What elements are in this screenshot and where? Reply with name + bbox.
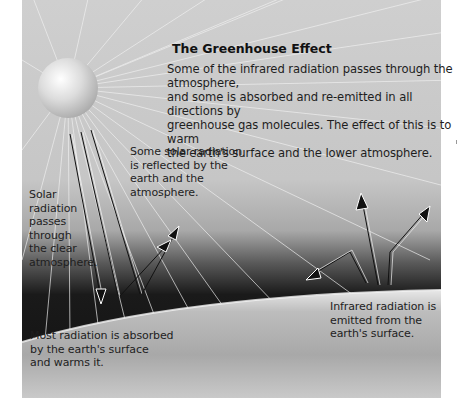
infrared-emitted-label: Infrared radiation is emitted from the e… [330,300,436,341]
absorbed-radiation-label: Most radiation is absorbed by the earth'… [30,329,174,370]
greenhouse-effect-diagram: The Greenhouse Effect Some of the infrar… [0,0,461,415]
stray-mark [456,140,457,144]
solar-passes-label: Solar radiation passes through the clear… [29,188,97,269]
sun-sphere [38,58,98,118]
diagram-title: The Greenhouse Effect [172,41,332,56]
reflected-radiation-label: Some solar radiation is reflected by the… [130,145,242,199]
